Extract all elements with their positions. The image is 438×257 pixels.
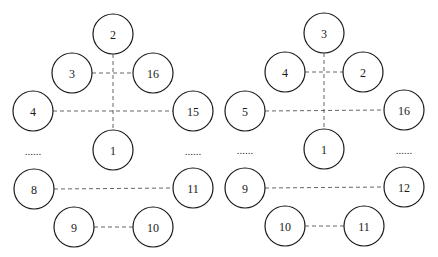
node-label: 4 — [282, 66, 288, 80]
ellipsis-marker: ...... — [237, 144, 254, 156]
node-left-4: 4 — [13, 91, 53, 131]
ellipsis-marker: ...... — [396, 144, 413, 156]
node-right-9: 9 — [225, 168, 265, 208]
nodes-layer: 2316415181191034251619121011 — [13, 13, 424, 247]
node-right-4: 4 — [265, 52, 305, 92]
node-right-1: 1 — [304, 129, 344, 169]
node-right-12: 12 — [384, 167, 424, 207]
node-right-10: 10 — [265, 206, 305, 246]
ellipsis-marker: ...... — [185, 145, 202, 157]
node-left-16: 16 — [133, 53, 173, 93]
node-right-3: 3 — [304, 13, 344, 53]
node-label: 12 — [398, 181, 410, 195]
node-right-2: 2 — [343, 52, 383, 92]
node-label: 2 — [110, 28, 116, 42]
node-label: 5 — [242, 105, 248, 119]
diagram-svg: 2316415181191034251619121011 ...........… — [0, 0, 438, 257]
node-left-8: 8 — [14, 169, 54, 209]
node-right-5: 5 — [225, 91, 265, 131]
node-label: 10 — [279, 220, 291, 234]
node-label: 9 — [71, 221, 77, 235]
node-label: 4 — [30, 105, 36, 119]
node-left-1: 1 — [93, 130, 133, 170]
node-label: 3 — [321, 27, 327, 41]
node-left-2: 2 — [93, 14, 133, 54]
node-left-11: 11 — [173, 168, 213, 208]
node-label: 16 — [398, 104, 410, 118]
dashed-edge — [265, 110, 384, 111]
node-label: 9 — [242, 182, 248, 196]
node-label: 10 — [147, 221, 159, 235]
node-label: 1 — [110, 144, 116, 158]
node-label: 16 — [147, 67, 159, 81]
node-left-15: 15 — [173, 91, 213, 131]
node-right-11: 11 — [344, 206, 384, 246]
node-label: 2 — [360, 66, 366, 80]
dashed-edge — [54, 188, 173, 189]
node-label: 8 — [31, 183, 37, 197]
dashed-edge — [265, 187, 384, 188]
node-label: 1 — [321, 143, 327, 157]
node-right-16: 16 — [384, 90, 424, 130]
node-label: 15 — [187, 105, 199, 119]
node-label: 3 — [69, 67, 75, 81]
round-robin-diagram-canvas: 2316415181191034251619121011 ...........… — [0, 0, 438, 257]
ellipsis-layer: ........................ — [25, 144, 413, 157]
node-label: 11 — [358, 220, 370, 234]
node-left-9: 9 — [54, 207, 94, 247]
node-label: 11 — [187, 182, 199, 196]
ellipsis-marker: ...... — [25, 145, 42, 157]
node-left-10: 10 — [133, 207, 173, 247]
node-left-3: 3 — [52, 53, 92, 93]
